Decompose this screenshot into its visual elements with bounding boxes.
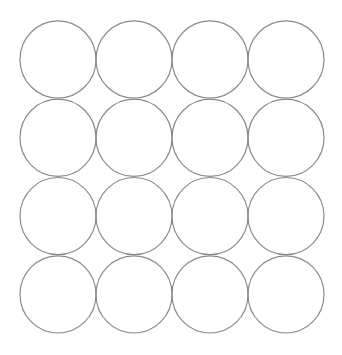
circle-r3-c3 <box>172 178 248 255</box>
circle-r4-c2 <box>96 256 172 333</box>
circle-r2-c1 <box>20 99 96 176</box>
circle-r3-c4 <box>248 178 324 255</box>
circle-r4-c3 <box>172 256 248 333</box>
circle-r3-c2 <box>96 178 172 255</box>
circle-r4-c1 <box>20 256 96 333</box>
circle-grid-diagram <box>0 0 342 355</box>
circle-r1-c2 <box>96 21 172 98</box>
circle-r4-c4 <box>248 256 324 333</box>
circle-r1-c3 <box>172 21 248 98</box>
circle-r2-c2 <box>96 99 172 176</box>
circle-r2-c4 <box>248 99 324 176</box>
circle-r1-c4 <box>248 21 324 98</box>
circle-r3-c1 <box>20 178 96 255</box>
circle-r2-c3 <box>172 99 248 176</box>
circle-r1-c1 <box>20 21 96 98</box>
